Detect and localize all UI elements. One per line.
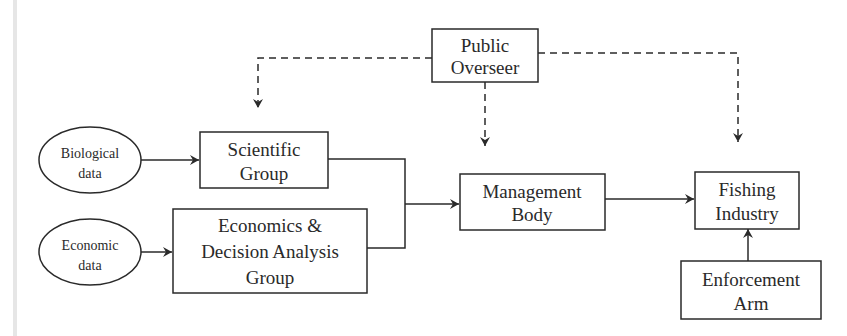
node-economics-decision-analysis-group: Economics & Decision Analysis Group <box>173 209 367 293</box>
node-public-overseer: Public Overseer <box>432 29 538 82</box>
fishery-management-diagram: Public Overseer Biological data Economic… <box>0 0 847 336</box>
node-label: Overseer <box>451 57 520 78</box>
node-label: Scientific <box>228 139 301 160</box>
node-label: data <box>78 166 102 181</box>
node-biological-data: Biological data <box>39 127 141 193</box>
dashed-edge-overseer-to-fishing <box>538 53 738 142</box>
node-fishing-industry: Fishing Industry <box>695 172 799 229</box>
dashed-edge-overseer-to-scientific <box>258 58 432 108</box>
node-label: Enforcement <box>702 269 801 290</box>
node-label: Public <box>461 35 510 56</box>
node-label: Economics & <box>218 215 322 236</box>
node-enforcement-arm: Enforcement Arm <box>681 261 821 319</box>
node-economic-data: Economic data <box>39 219 141 285</box>
node-label: data <box>78 258 102 273</box>
node-label: Arm <box>734 293 769 314</box>
node-label: Industry <box>715 203 779 224</box>
node-label: Management <box>482 181 582 202</box>
node-label: Fishing <box>718 179 776 200</box>
node-label: Group <box>240 163 289 184</box>
node-label: Body <box>511 204 553 225</box>
node-management-body: Management Body <box>460 174 605 230</box>
node-label: Biological <box>61 146 119 161</box>
node-label: Decision Analysis <box>201 241 339 262</box>
node-label: Economic <box>62 238 119 253</box>
node-label: Group <box>246 267 295 288</box>
node-scientific-group: Scientific Group <box>200 132 328 188</box>
